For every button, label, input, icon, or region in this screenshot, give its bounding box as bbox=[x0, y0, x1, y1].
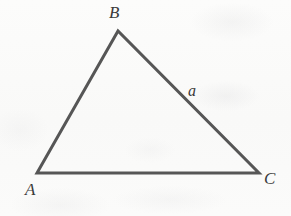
triangle-shape bbox=[0, 0, 291, 216]
vertex-label-b: B bbox=[109, 4, 119, 21]
side-label-a: a bbox=[188, 83, 196, 99]
vertex-label-c: C bbox=[264, 170, 275, 187]
geometry-figure-triangle-abc: B A C a bbox=[0, 0, 291, 216]
triangle-outline bbox=[37, 31, 259, 173]
vertex-label-a: A bbox=[25, 181, 35, 198]
